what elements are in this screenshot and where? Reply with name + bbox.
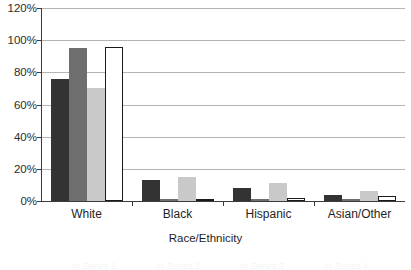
- x-axis-tick-label: White: [41, 206, 132, 222]
- x-axis-title: Race/Ethnicity: [0, 232, 411, 244]
- bar: [51, 79, 69, 201]
- x-axis-tick-labels: WhiteBlackHispanicAsian/Other: [41, 206, 405, 224]
- y-axis-tick-labels: 0%20%40%60%80%100%120%: [0, 8, 37, 201]
- x-axis-tick-label: Hispanic: [223, 206, 314, 222]
- y-axis-tick-label: 60%: [0, 100, 37, 111]
- y-axis-tick-label: 120%: [0, 3, 37, 14]
- y-axis-tick-label: 80%: [0, 67, 37, 78]
- bar: [269, 183, 287, 201]
- legend-label: Series 2: [167, 262, 200, 270]
- plot-area: [41, 8, 405, 201]
- legend-swatch: [156, 264, 164, 270]
- legend-swatch: [72, 264, 80, 270]
- y-axis-tick-label: 100%: [0, 35, 37, 46]
- y-axis-tick-label: 40%: [0, 132, 37, 143]
- legend-label: Series 4: [335, 262, 368, 270]
- y-axis-tick-label: 20%: [0, 164, 37, 175]
- y-axis-line: [41, 8, 42, 202]
- legend-cropped: Series 1Series 2Series 3Series 4: [0, 262, 411, 270]
- bar: [69, 48, 87, 201]
- legend-label: Series 1: [83, 262, 116, 270]
- bar: [105, 47, 123, 201]
- bar-chart: 0%20%40%60%80%100%120% WhiteBlackHispani…: [0, 0, 411, 270]
- x-axis-tick-label: Asian/Other: [314, 206, 405, 222]
- legend-label: Series 3: [251, 262, 284, 270]
- bar: [87, 88, 105, 201]
- bar: [142, 180, 160, 201]
- y-axis-tick-label: 0%: [0, 196, 37, 207]
- bar: [360, 191, 378, 201]
- bar-group: [132, 8, 223, 201]
- x-axis-tick-label: Black: [132, 206, 223, 222]
- bar-group: [223, 8, 314, 201]
- legend-swatch: [324, 264, 332, 270]
- bar: [178, 177, 196, 201]
- legend-swatch: [240, 264, 248, 270]
- bar: [233, 188, 251, 201]
- bar-group: [41, 8, 132, 201]
- bar-group: [314, 8, 405, 201]
